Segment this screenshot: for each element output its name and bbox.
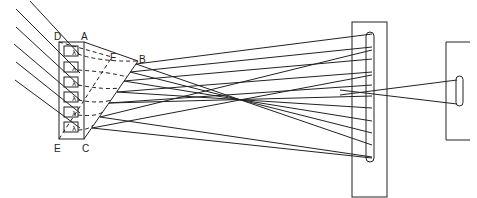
lambda-symbol: λ [72,80,76,88]
small-cylinder-lens [456,76,463,106]
label-D: D [54,31,61,42]
outgoing-rays [92,34,372,158]
optics-diagram: D A F B E C λ λ λ λ λ λ [0,0,477,198]
label-B: B [139,54,146,65]
screen-bracket [446,42,470,140]
lambda-symbol: λ [72,65,76,73]
incident-rays [14,1,80,128]
lambda-symbol: λ [72,125,76,133]
label-A: A [81,31,88,42]
label-F: F [110,52,116,63]
lambda-symbol: λ [72,49,76,57]
lambda-symbol: λ [72,110,76,118]
label-C: C [82,143,89,154]
label-E: E [54,143,61,154]
lambda-symbol: λ [72,95,76,103]
dashed-diagonal [59,57,112,139]
